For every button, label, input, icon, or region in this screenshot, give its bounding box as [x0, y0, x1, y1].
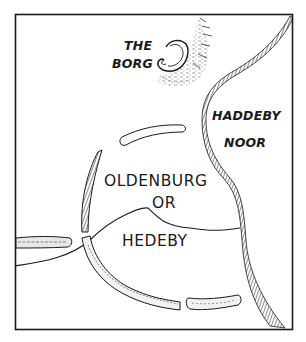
haddeby-noor-shoreline [202, 16, 293, 328]
rampart-upper-arc [120, 125, 186, 146]
label-borg: BORG [112, 58, 153, 71]
label-noor: NOOR [224, 137, 266, 150]
label-the: THE [124, 40, 152, 53]
label-haddeby: HADDEBY [212, 110, 281, 123]
hill-shading [158, 16, 212, 86]
label-hedeby: HEDEBY [122, 234, 187, 250]
rampart-southeast [186, 295, 241, 310]
label-oldenburg: OLDENBURG [104, 174, 207, 190]
map-canvas [0, 0, 306, 342]
rampart-west-upper [82, 150, 102, 232]
label-or: OR [152, 196, 176, 212]
